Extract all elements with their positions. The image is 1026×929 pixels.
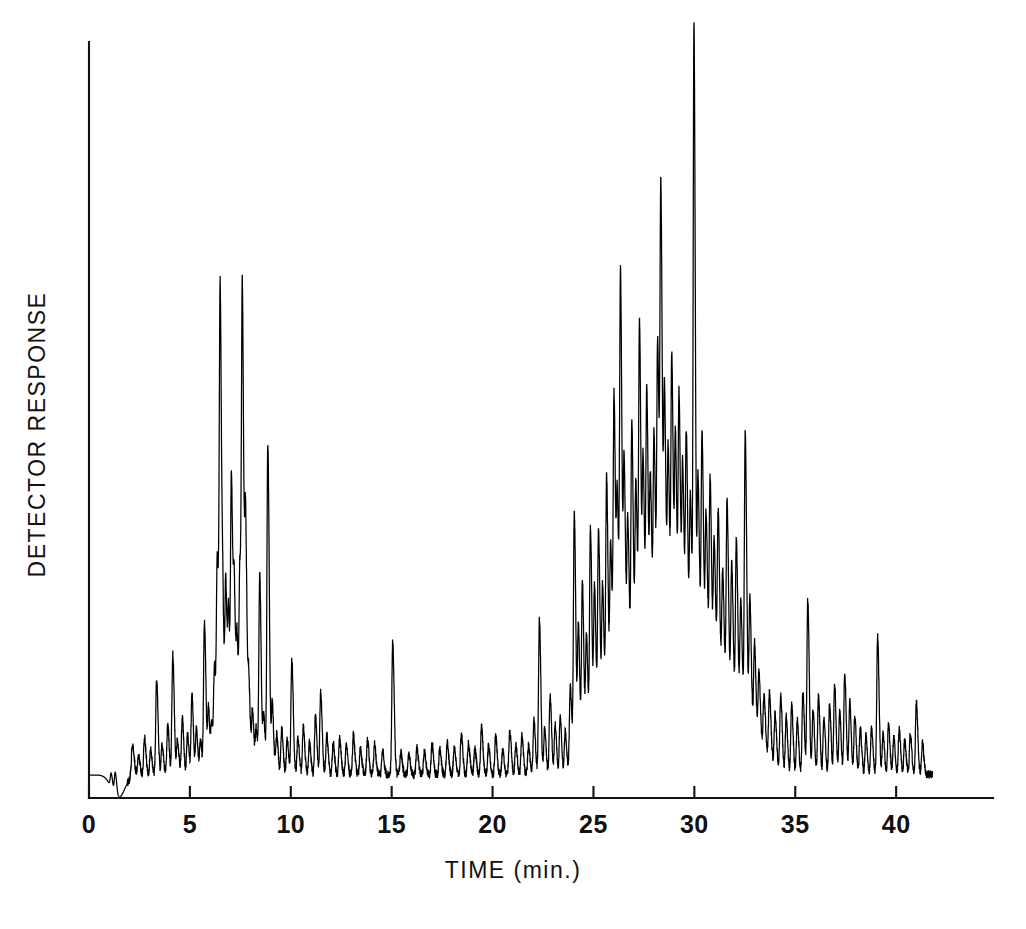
x-axis-ticks xyxy=(89,786,896,798)
x-axis-tick-labels: 0510152025303540 xyxy=(82,810,911,838)
x-axis-tick-label: 25 xyxy=(579,810,608,838)
chromatogram-trace xyxy=(90,22,932,797)
chromatogram-figure: 0510152025303540 TIME (min.) DETECTOR RE… xyxy=(0,0,1026,929)
x-axis-tick-label: 40 xyxy=(882,810,911,838)
chromatogram-trace-group xyxy=(90,22,932,797)
x-axis-tick-label: 15 xyxy=(377,810,406,838)
x-axis-tick-label: 5 xyxy=(183,810,197,838)
x-axis-tick-label: 10 xyxy=(276,810,305,838)
chromatogram-plot: 0510152025303540 xyxy=(0,0,1026,929)
y-axis-title-wrapper: DETECTOR RESPONSE xyxy=(18,0,58,929)
y-axis-title: DETECTOR RESPONSE xyxy=(25,292,52,578)
x-axis-tick-label: 20 xyxy=(478,810,507,838)
x-axis-tick-label: 0 xyxy=(82,810,96,838)
x-axis-tick-label: 35 xyxy=(781,810,810,838)
x-axis-title: TIME (min.) xyxy=(0,857,1026,884)
x-axis-tick-label: 30 xyxy=(680,810,709,838)
